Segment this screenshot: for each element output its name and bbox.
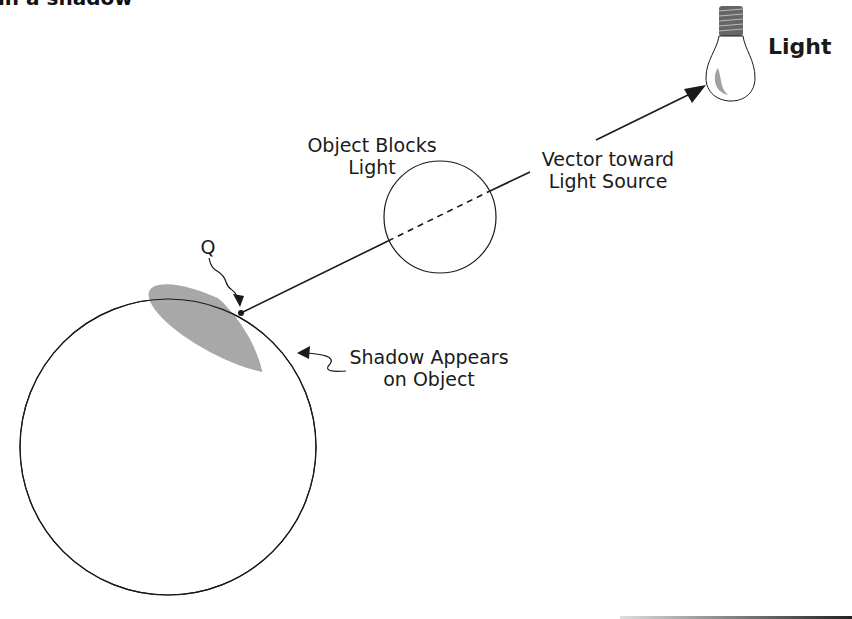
- shadow-region: [137, 268, 306, 391]
- object-blocks-label: Object Blocks Light: [292, 134, 452, 178]
- receiving-sphere: [20, 268, 316, 595]
- shadow-pointer-arrow: [306, 353, 346, 371]
- q-label: Q: [196, 236, 220, 258]
- shadow-label: Shadow Appears on Object: [344, 346, 514, 390]
- q-arrowhead-icon: [233, 294, 244, 307]
- point-q-dot: [238, 310, 244, 316]
- arrowhead-icon: [684, 85, 706, 103]
- vector-label: Vector toward Light Source: [528, 148, 688, 192]
- q-pointer-arrow: [209, 258, 238, 300]
- light-bulb-icon: [706, 6, 755, 101]
- diagram-canvas: [0, 0, 852, 619]
- light-label: Light: [768, 36, 832, 58]
- light-vector-arrow: [241, 94, 690, 313]
- shadow-arrowhead-icon: [297, 346, 310, 359]
